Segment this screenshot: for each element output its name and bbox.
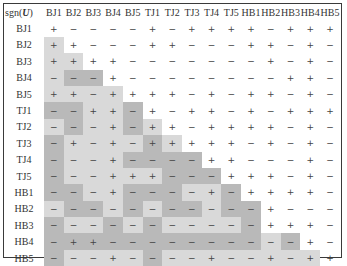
sign-cell: + [162, 37, 182, 53]
row-header: TJ4 [4, 152, 44, 168]
row-header: BJ4 [4, 70, 44, 86]
table-row: TJ3−+−+−+++++−+−+− [4, 135, 340, 151]
sign-cell: − [221, 201, 241, 217]
sign-cell: − [83, 70, 103, 86]
sign-cell: + [202, 102, 222, 118]
sign-cell: − [241, 250, 261, 266]
sign-cell: + [261, 168, 281, 184]
sign-cell: − [221, 86, 241, 102]
column-header: BJ1 [44, 4, 64, 20]
sign-cell: − [143, 53, 163, 69]
table-row: BJ3++++−−−−−−−+−+− [4, 53, 340, 69]
sign-cell: + [261, 135, 281, 151]
sign-cell: + [143, 119, 163, 135]
sign-cell: − [44, 119, 64, 135]
sign-cell: + [241, 119, 261, 135]
sign-cell: − [143, 70, 163, 86]
sign-cell: − [162, 250, 182, 266]
row-header: HB4 [4, 233, 44, 249]
sign-cell: − [320, 37, 340, 53]
sign-cell: − [320, 168, 340, 184]
sign-cell: − [261, 20, 281, 36]
sign-cell: − [320, 119, 340, 135]
sign-cell: + [320, 102, 340, 118]
sign-cell: − [162, 70, 182, 86]
sign-cell: − [123, 20, 143, 36]
sign-cell: + [241, 20, 261, 36]
row-header: BJ2 [4, 37, 44, 53]
sign-cell: − [83, 168, 103, 184]
row-header: HB3 [4, 217, 44, 233]
sign-cell: − [182, 201, 202, 217]
sign-cell: − [221, 250, 241, 266]
sign-cell: + [300, 233, 320, 249]
sign-cell: − [83, 217, 103, 233]
sign-cell: − [143, 217, 163, 233]
sign-cell: − [143, 184, 163, 200]
sign-cell: + [241, 102, 261, 118]
sign-cell: − [281, 201, 301, 217]
sign-cell: − [64, 102, 84, 118]
sign-cell: − [162, 168, 182, 184]
table-row: BJ4−−−+−−−−−−−−++− [4, 70, 340, 86]
sign-cell: + [281, 184, 301, 200]
sign-cell: − [241, 53, 261, 69]
sign-cell: − [281, 135, 301, 151]
sign-cell: − [241, 135, 261, 151]
table-row: TJ1−−++−+−++−+−+++ [4, 102, 340, 118]
sign-cell: + [182, 102, 202, 118]
sign-cell: − [221, 53, 241, 69]
sign-cell: + [300, 250, 320, 266]
sign-cell: − [64, 201, 84, 217]
sign-cell: + [261, 53, 281, 69]
sign-cell: − [44, 102, 64, 118]
sign-cell: − [64, 250, 84, 266]
sign-cell: − [64, 168, 84, 184]
sign-cell: − [281, 119, 301, 135]
sign-cell: − [123, 233, 143, 249]
column-header: HB1 [241, 4, 261, 20]
corner-label: sgn(U) [4, 4, 44, 20]
column-header: TJ5 [221, 4, 241, 20]
sign-cell: + [281, 20, 301, 36]
sign-cell: + [320, 250, 340, 266]
table-row: HB4−++−−−−−−−−−−+− [4, 233, 340, 249]
sign-cell: − [182, 70, 202, 86]
column-header: BJ2 [64, 4, 84, 20]
table-row: BJ5++−++++−+−++−+− [4, 86, 340, 102]
row-header: HB1 [4, 184, 44, 200]
sign-cell: − [123, 119, 143, 135]
column-header: TJ4 [202, 4, 222, 20]
sign-cell: + [300, 86, 320, 102]
column-header: BJ3 [83, 4, 103, 20]
sign-cell: − [320, 70, 340, 86]
column-header: HB3 [281, 4, 301, 20]
sign-cell: − [281, 86, 301, 102]
sign-cell: + [300, 53, 320, 69]
sign-cell: + [300, 135, 320, 151]
row-header: BJ5 [4, 86, 44, 102]
sign-cell: + [300, 168, 320, 184]
sign-cell: − [202, 168, 222, 184]
sign-cell: − [221, 233, 241, 249]
sign-cell: − [221, 184, 241, 200]
sign-cell: − [83, 37, 103, 53]
sign-cell: + [64, 135, 84, 151]
sign-cell: − [44, 184, 64, 200]
row-header: HB2 [4, 201, 44, 217]
sign-cell: − [202, 70, 222, 86]
sign-cell: + [300, 152, 320, 168]
sign-cell: − [103, 201, 123, 217]
column-header: TJ2 [162, 4, 182, 20]
table-row: TJ5−−−+++−−−+++−+− [4, 168, 340, 184]
sign-cell: − [123, 250, 143, 266]
sign-cell: − [143, 152, 163, 168]
sign-cell: − [44, 233, 64, 249]
row-header: TJ2 [4, 119, 44, 135]
sign-cell: + [123, 86, 143, 102]
sign-cell: − [261, 102, 281, 118]
sign-cell: + [103, 102, 123, 118]
sign-cell: + [143, 37, 163, 53]
sign-cell: − [162, 152, 182, 168]
sign-cell: − [162, 217, 182, 233]
